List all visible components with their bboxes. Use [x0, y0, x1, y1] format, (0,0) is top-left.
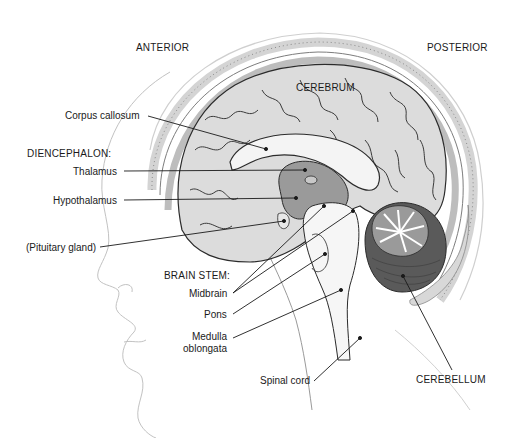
- hypothalamus-label: Hypothalamus: [53, 195, 117, 207]
- neck-back-outline: [395, 330, 470, 410]
- diencephalon-header: DIENCEPHALON:: [27, 148, 111, 160]
- cerebrum-label: CEREBRUM: [296, 82, 355, 94]
- cerebellum-label: CEREBELLUM: [416, 374, 486, 386]
- pons-label: Pons: [204, 309, 227, 321]
- face-profile-outline: [98, 72, 170, 438]
- nostril-outline: [118, 285, 132, 292]
- posterior-label: POSTERIOR: [427, 42, 488, 54]
- spinal-cord-label: Spinal cord: [260, 375, 310, 387]
- corpus-callosum-label: Corpus callosum: [65, 110, 139, 122]
- brainstem-header: BRAIN STEM:: [164, 270, 230, 282]
- medulla-label-line1: Medulla: [182, 331, 227, 343]
- medulla-label-line2: oblongata: [172, 343, 227, 355]
- brain-illustration: [0, 0, 518, 438]
- pituitary-label: (Pituitary gland): [26, 242, 96, 254]
- midbrain-label: Midbrain: [189, 288, 227, 300]
- brain-diagram: ANTERIOR POSTERIOR CEREBRUM Corpus callo…: [0, 0, 518, 438]
- anterior-label: ANTERIOR: [136, 42, 189, 54]
- leader-medulla: [233, 290, 341, 338]
- interthalamic-adhesion: [305, 176, 317, 184]
- thalamus-label: Thalamus: [73, 166, 117, 178]
